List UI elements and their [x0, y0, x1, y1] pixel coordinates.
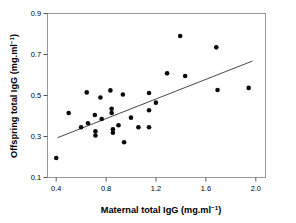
y-axis-title: Offspring total IgG (mg.ml−1) [8, 34, 19, 158]
y-tick-label-4: 0.1 [31, 173, 41, 182]
data-point [122, 140, 127, 145]
data-point [86, 121, 91, 126]
data-point [109, 107, 114, 112]
y-tick-label-2: 0.5 [31, 91, 41, 100]
scatter-plot-figure: 0.9 0.7 0.5 0.3 0.1 0.4 0.8 1.2 1.6 2.0 [0, 0, 296, 223]
data-point [116, 123, 121, 128]
data-point [66, 111, 71, 116]
data-point [154, 100, 159, 105]
data-point [147, 108, 152, 113]
x-tick-label-3: 1.6 [201, 184, 211, 193]
chart-canvas: 0.9 0.7 0.5 0.3 0.1 0.4 0.8 1.2 1.6 2.0 [0, 0, 296, 223]
data-point [93, 133, 98, 138]
data-point [121, 92, 126, 97]
y-tick-label-0: 0.9 [31, 9, 41, 18]
data-point [246, 86, 251, 91]
x-tick-labels: 0.4 0.8 1.2 1.6 2.0 [51, 184, 261, 193]
data-point [129, 115, 134, 120]
data-point [178, 34, 183, 39]
data-point [109, 111, 114, 116]
data-point [111, 131, 116, 136]
y-axis-ticks [44, 14, 48, 178]
data-point [98, 95, 103, 100]
regression-line [57, 61, 252, 138]
data-point [147, 125, 152, 130]
data-point [93, 129, 98, 134]
x-tick-label-1: 0.8 [101, 184, 111, 193]
data-point [108, 88, 113, 93]
x-axis-title: Maternal total IgG (mg.ml−1) [101, 204, 221, 215]
data-point [84, 90, 89, 95]
data-point [147, 91, 152, 96]
x-tick-label-2: 1.2 [151, 184, 161, 193]
data-point [54, 156, 59, 161]
y-tick-labels: 0.9 0.7 0.5 0.3 0.1 [31, 9, 41, 182]
plot-frame [48, 14, 266, 178]
data-points-group [54, 34, 251, 161]
regression-line-group [57, 61, 252, 138]
data-point [99, 117, 104, 122]
y-tick-label-3: 0.3 [31, 132, 41, 141]
x-tick-label-0: 0.4 [51, 184, 61, 193]
data-point [79, 125, 84, 130]
x-tick-label-4: 2.0 [251, 184, 261, 193]
x-axis-ticks [56, 178, 256, 182]
data-point [93, 113, 98, 118]
data-point [165, 71, 170, 76]
data-point [183, 74, 188, 79]
data-point [215, 88, 220, 93]
y-tick-label-1: 0.7 [31, 50, 41, 59]
data-point [136, 125, 141, 130]
data-point [214, 45, 219, 50]
